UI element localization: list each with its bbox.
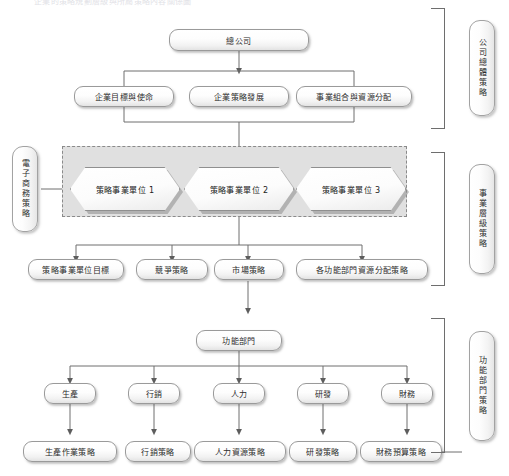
bracket-business	[431, 152, 445, 286]
node-sbu-2-label: 策略事業單位 2	[210, 184, 269, 195]
node-dept-marketing-label: 行銷	[146, 388, 163, 399]
left-label-ecommerce-strategy[interactable]: 電子商務策略	[12, 146, 38, 232]
node-dept-finance-label: 財務	[399, 388, 416, 399]
node-sbu-1-label: 策略事業單位 1	[96, 184, 155, 195]
node-dept-rnd-label: 研發	[315, 388, 332, 399]
node-corporate-goals-mission-label: 企業目標與使命	[95, 91, 154, 102]
node-market-strategy[interactable]: 市場策略	[214, 259, 284, 280]
node-functional-resource-allocation-strategy[interactable]: 各功能部門資源分配策略	[296, 259, 428, 280]
node-strategy-marketing-label: 行銷策略	[141, 446, 175, 457]
node-sbu-3-label: 策略事業單位 3	[322, 184, 381, 195]
diagram-canvas: 企業的策略規劃層級與所屬策略內容關係圖	[0, 0, 509, 476]
node-dept-marketing[interactable]: 行銷	[128, 383, 180, 404]
node-sbu-1[interactable]: 策略事業單位 1	[70, 167, 180, 211]
node-business-portfolio-resource-allocation[interactable]: 事業組合與資源分配	[296, 86, 412, 107]
node-corporate-strategy-development[interactable]: 企業策略發展	[189, 86, 289, 107]
node-functional-departments[interactable]: 功能部門	[196, 330, 282, 351]
node-headquarters-label: 總公司	[226, 34, 251, 45]
node-sbu-objectives[interactable]: 策略事業單位目標	[28, 259, 124, 280]
node-strategy-hr[interactable]: 人力資源策略	[194, 441, 286, 462]
node-corporate-strategy-development-label: 企業策略發展	[214, 91, 264, 102]
node-dept-production-label: 生產	[62, 388, 79, 399]
node-business-portfolio-resource-allocation-label: 事業組合與資源分配	[316, 91, 392, 102]
sbu-1-wrap: 策略事業單位 1	[70, 167, 180, 211]
sbu-2-wrap: 策略事業單位 2	[184, 167, 294, 211]
bracket-corporate	[431, 8, 445, 129]
bracket-functional	[431, 318, 445, 453]
right-label-functional-strategy[interactable]: 功能部門策略	[469, 331, 495, 441]
node-strategy-production-operations-label: 生產作業策略	[45, 446, 95, 457]
node-dept-finance[interactable]: 財務	[381, 383, 433, 404]
node-corporate-goals-mission[interactable]: 企業目標與使命	[74, 86, 174, 107]
node-dept-hr-label: 人力	[231, 388, 248, 399]
top-caption: 企業的策略規劃層級與所屬策略內容關係圖	[34, 0, 294, 8]
node-strategy-production-operations[interactable]: 生產作業策略	[23, 441, 117, 462]
node-sbu-objectives-label: 策略事業單位目標	[42, 264, 109, 275]
node-strategy-hr-label: 人力資源策略	[215, 446, 265, 457]
node-dept-production[interactable]: 生產	[44, 383, 96, 404]
left-label-text: 電子商務策略	[20, 159, 31, 219]
node-strategy-finance-budget[interactable]: 財務預算策略	[360, 441, 442, 462]
node-functional-departments-label: 功能部門	[222, 335, 256, 346]
right-label-corporate-strategy[interactable]: 公司總體策略	[469, 20, 495, 116]
right-label-business-strategy[interactable]: 事業層級策略	[469, 164, 495, 274]
node-sbu-3[interactable]: 策略事業單位 3	[296, 167, 406, 211]
node-strategy-finance-budget-label: 財務預算策略	[376, 446, 426, 457]
node-strategy-rnd[interactable]: 研發策略	[289, 441, 357, 462]
node-functional-resource-allocation-strategy-label: 各功能部門資源分配策略	[316, 264, 408, 275]
node-dept-hr[interactable]: 人力	[213, 383, 265, 404]
node-competitive-strategy[interactable]: 競爭策略	[136, 259, 208, 280]
right-label-corporate-strategy-text: 公司總體策略	[477, 38, 488, 98]
right-label-functional-strategy-text: 功能部門策略	[477, 356, 488, 416]
right-label-business-strategy-text: 事業層級策略	[477, 189, 488, 249]
sbu-3-wrap: 策略事業單位 3	[296, 167, 406, 211]
node-market-strategy-label: 市場策略	[232, 264, 266, 275]
node-dept-rnd[interactable]: 研發	[297, 383, 349, 404]
node-sbu-2[interactable]: 策略事業單位 2	[184, 167, 294, 211]
node-headquarters[interactable]: 總公司	[169, 29, 309, 51]
node-competitive-strategy-label: 競爭策略	[155, 264, 189, 275]
node-strategy-rnd-label: 研發策略	[306, 446, 340, 457]
node-strategy-marketing[interactable]: 行銷策略	[125, 441, 191, 462]
